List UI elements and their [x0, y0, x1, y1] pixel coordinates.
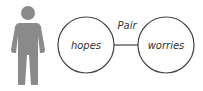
- connector-label: Pair: [117, 20, 137, 31]
- pair-diagram: Pair hopes worries: [0, 0, 203, 91]
- node-label-worries: worries: [148, 40, 185, 51]
- node-label-hopes: hopes: [71, 40, 101, 51]
- person-icon: [11, 6, 45, 85]
